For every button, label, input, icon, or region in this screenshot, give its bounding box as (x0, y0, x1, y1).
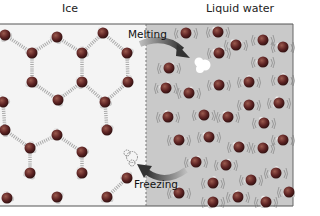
freezing-label: Freezing (134, 178, 178, 190)
melting-label: Melting (128, 28, 167, 40)
